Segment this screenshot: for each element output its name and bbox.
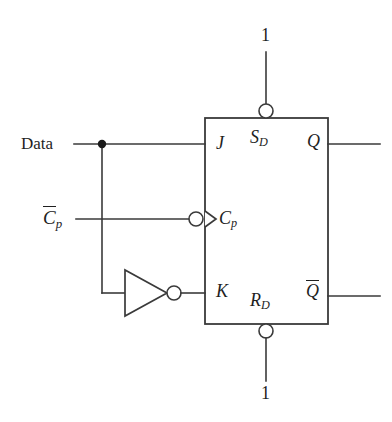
clock-inversion-bubble [189, 212, 203, 226]
clock-bar-input-label: Cp [43, 206, 62, 231]
preset-active-low-bubble [259, 104, 273, 118]
cp-clock-input-label: Cp [219, 209, 237, 230]
logic-circuit-diagram: Data Cp J SD Q Cp K RD Q 1 1 [0, 0, 392, 422]
k-input-label: K [216, 282, 228, 300]
j-input-label: J [216, 134, 224, 152]
qbar-output-label: Q [306, 280, 319, 300]
data-junction-dot [98, 140, 106, 148]
logic-one-bottom-label: 1 [261, 384, 270, 402]
preset-sd-label: SD [250, 128, 268, 149]
clear-rd-label: RD [250, 291, 270, 312]
q-output-label: Q [307, 132, 320, 150]
logic-one-top-label: 1 [261, 26, 270, 44]
clock-dynamic-indicator-icon [205, 211, 216, 227]
data-input-label: Data [21, 135, 53, 152]
clear-active-low-bubble [259, 324, 273, 338]
inverter-output-bubble [167, 286, 181, 300]
inverter-triangle-icon [125, 270, 167, 316]
